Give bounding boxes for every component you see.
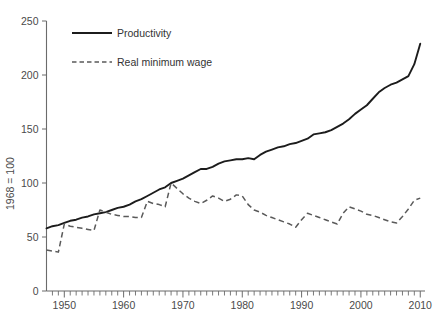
y-axis-title: 1968 = 100	[4, 157, 16, 210]
x-tick-label: 1980	[231, 299, 255, 311]
x-tick-label: 1950	[53, 299, 77, 311]
chart-container: 050100150200250 195019601970198019902000…	[0, 0, 439, 326]
y-axis-tick-labels: 050100150200250	[21, 15, 39, 297]
y-axis: 050100150200250	[21, 15, 47, 297]
y-axis-ticks	[42, 21, 47, 291]
x-axis-minor-ticks	[52, 291, 420, 298]
x-axis: 1950196019701980199020002010	[47, 291, 433, 311]
y-tick-label: 0	[33, 285, 39, 297]
series-line-productivity	[47, 44, 421, 229]
legend: Productivity Real minimum wage	[72, 27, 212, 68]
legend-label-productivity: Productivity	[117, 27, 172, 39]
x-tick-label: 1970	[171, 299, 195, 311]
y-tick-label: 250	[21, 15, 39, 27]
y-tick-label: 200	[21, 69, 39, 81]
x-axis-tick-labels: 1950196019701980199020002010	[53, 299, 432, 311]
y-tick-label: 100	[21, 177, 39, 189]
x-tick-label: 2000	[349, 299, 373, 311]
series-line-real-minimum-wage	[47, 183, 421, 252]
x-tick-label: 1990	[290, 299, 314, 311]
x-tick-label: 1960	[112, 299, 136, 311]
x-tick-label: 2010	[409, 299, 433, 311]
line-chart: 050100150200250 195019601970198019902000…	[0, 0, 439, 326]
y-tick-label: 50	[27, 231, 39, 243]
data-series-layer	[47, 44, 421, 252]
legend-label-real-minimum-wage: Real minimum wage	[117, 56, 212, 68]
y-tick-label: 150	[21, 123, 39, 135]
